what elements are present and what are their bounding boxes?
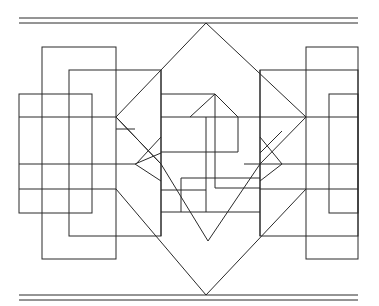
large-diamond xyxy=(206,23,306,164)
geometric-pattern-drawing xyxy=(0,0,379,306)
inner-vee xyxy=(161,164,260,241)
bottom-vee xyxy=(116,189,306,295)
right-diag-small-b xyxy=(260,164,282,181)
left-diag-lower xyxy=(116,117,161,164)
right-middle-rect xyxy=(260,70,358,236)
left-inner-rect xyxy=(19,94,92,213)
right-diag-cross xyxy=(260,131,282,153)
left-diag-small-down xyxy=(135,164,161,181)
right-rectangles-group xyxy=(244,47,358,259)
left-middle-rect xyxy=(69,70,161,236)
center-motif-group xyxy=(161,70,260,236)
right-outer-rect xyxy=(306,47,358,259)
left-rectangles-group xyxy=(19,47,161,259)
left-diag-small-up xyxy=(135,153,161,164)
diamond-shapes-group xyxy=(116,23,306,295)
center-arrow-roof xyxy=(190,94,238,117)
horizontal-rules xyxy=(19,18,358,300)
right-inner-rect xyxy=(329,94,358,213)
left-outer-rect xyxy=(42,47,116,259)
